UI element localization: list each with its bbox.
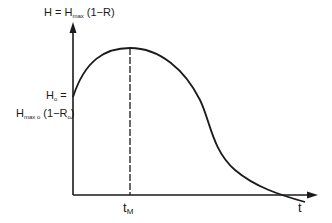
y-intercept-label-line2: Hmax o (1−Ro) [16, 108, 75, 120]
y-intercept-label-line1: Ho = [46, 90, 67, 102]
peak-time-label: tM [123, 201, 133, 216]
y-axis-label: H = Hmax (1−R) [44, 7, 115, 19]
h-curve [73, 48, 305, 202]
y-axis-arrow-icon [70, 22, 77, 33]
x-axis-label: t [298, 201, 302, 214]
x-axis-arrow-icon [307, 192, 318, 199]
